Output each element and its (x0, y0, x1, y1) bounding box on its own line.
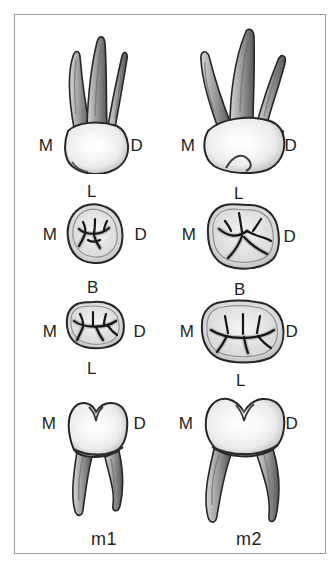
roots (73, 451, 123, 515)
m1-lower-buccal-distal-label: D (134, 415, 147, 432)
m2-lower-buccal-distal-label: D (286, 415, 299, 432)
roots (70, 37, 128, 128)
m1-lower-occlusal-distal-label: D (134, 323, 147, 340)
m2-upper-occlusal-lingual-label: L (234, 185, 244, 202)
m1-upper-occlusal-mesial-label: M (43, 226, 58, 243)
m2-lower-buccal-illustration (198, 393, 292, 529)
m2-upper-occlusal-distal-label: D (284, 228, 297, 245)
m1-upper-occlusal-buccal-label: B (87, 279, 99, 296)
m1-caption: m1 (91, 530, 117, 548)
m1-upper-buccal-illustration (60, 30, 132, 174)
m1-upper-occlusal-illustration (64, 202, 126, 266)
crown-highlight (215, 407, 275, 443)
m2-lower-occlusal-illustration (198, 298, 287, 367)
m2-lower-buccal-mesial-label: M (179, 415, 194, 432)
m1-upper-buccal-mesial-label: M (39, 137, 54, 154)
m1-lower-buccal-illustration (61, 397, 133, 519)
m2-upper-buccal-mesial-label: M (181, 137, 196, 154)
m1-upper-occlusal-lingual-label: L (87, 183, 97, 200)
m2-upper-occlusal-illustration (203, 201, 282, 273)
m2-upper-buccal-distal-label: D (285, 137, 298, 154)
m1-upper-buccal-distal-label: D (131, 137, 144, 154)
m1-lower-buccal-mesial-label: M (42, 415, 57, 432)
m1-lower-occlusal-mesial-label: M (43, 323, 58, 340)
m2-caption: m2 (236, 530, 262, 548)
m1-lower-occlusal-lingual-label: L (87, 360, 97, 377)
m1-upper-occlusal-distal-label: D (135, 226, 148, 243)
m1-lower-occlusal-illustration (63, 298, 127, 352)
roots (201, 29, 286, 128)
m2-upper-occlusal-buccal-label: B (234, 281, 246, 298)
m2-lower-occlusal-mesial-label: M (180, 323, 195, 340)
m2-lower-occlusal-distal-label: D (286, 323, 299, 340)
figure-canvas: M D L M D B M D L M D m1 M D L M D B M D… (0, 0, 335, 568)
m2-upper-buccal-illustration (196, 24, 292, 176)
m2-upper-occlusal-mesial-label: M (182, 226, 197, 243)
crown-highlight (75, 131, 117, 163)
m2-lower-occlusal-lingual-label: L (236, 372, 246, 389)
